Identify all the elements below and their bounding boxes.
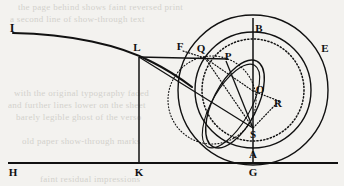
point-label-G: G [249,166,258,178]
figure-page: the page behind shows faint reversed pri… [0,0,344,186]
geometry-figure: I L F Q P B E O R S A H K G [0,0,344,186]
segment-SP [226,61,253,128]
point-label-F: F [177,40,184,52]
point-label-Q: Q [197,42,206,54]
point-label-H: H [9,166,18,178]
point-label-K: K [135,166,144,178]
point-label-B: B [255,22,263,34]
point-label-R: R [274,97,283,109]
point-label-S: S [250,128,256,140]
point-label-A: A [249,148,257,160]
point-label-E: E [321,42,328,54]
point-label-P: P [225,50,232,62]
horizontal-LQ [139,57,228,59]
curve-IL-trajectory [13,33,192,87]
point-label-O: O [256,83,265,95]
point-label-L: L [133,41,140,53]
point-label-I: I [10,21,15,35]
